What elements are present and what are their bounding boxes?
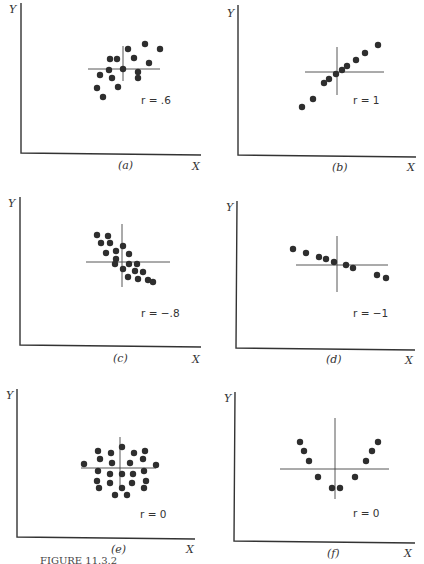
- data-point: [142, 448, 148, 454]
- axes-d: [236, 201, 415, 350]
- data-point: [339, 67, 345, 73]
- panel-b: Y X (b) r = 1: [227, 5, 416, 174]
- data-point: [143, 478, 149, 484]
- data-point: [96, 485, 102, 491]
- y-axis-label-f: Y: [224, 392, 233, 405]
- data-point: [153, 462, 159, 468]
- data-point: [297, 439, 303, 445]
- points-a: [94, 41, 163, 100]
- figure-caption: FIGURE 11.3.2: [40, 555, 117, 564]
- data-point: [119, 485, 125, 491]
- data-point: [310, 96, 316, 102]
- data-point: [107, 240, 113, 246]
- data-point: [120, 266, 126, 272]
- points-f: [297, 439, 381, 491]
- data-point: [109, 460, 115, 466]
- data-point: [344, 63, 350, 69]
- data-point: [125, 274, 131, 280]
- data-point: [120, 66, 126, 72]
- r-value-d: r = −1: [353, 307, 388, 319]
- data-point: [125, 46, 131, 52]
- panel-d: Y X (d) r = −1: [226, 201, 415, 367]
- r-value-b: r = 1: [353, 94, 379, 106]
- x-axis-label-b: X: [406, 161, 416, 174]
- data-point: [95, 448, 101, 454]
- data-point: [131, 450, 137, 456]
- data-point: [135, 75, 141, 81]
- data-point: [107, 56, 113, 62]
- data-point: [103, 250, 109, 256]
- data-point: [369, 448, 375, 454]
- data-point: [374, 272, 380, 278]
- data-point: [375, 42, 381, 48]
- data-point: [94, 478, 100, 484]
- data-point: [134, 261, 140, 267]
- crosshair-d: [296, 236, 388, 292]
- data-point: [150, 279, 156, 285]
- data-point: [141, 468, 147, 474]
- data-point: [97, 456, 103, 462]
- data-point: [135, 69, 141, 75]
- data-point: [363, 458, 369, 464]
- panel-a: Y X (a) r = .6: [9, 3, 201, 173]
- data-point: [113, 248, 119, 254]
- data-point: [350, 265, 356, 271]
- y-axis-label-a: Y: [9, 3, 18, 16]
- data-point: [315, 474, 321, 480]
- data-point: [352, 474, 358, 480]
- data-point: [131, 55, 137, 61]
- data-point: [132, 268, 138, 274]
- data-point: [140, 269, 146, 275]
- data-point: [97, 72, 103, 78]
- y-axis-label-e: Y: [6, 389, 15, 402]
- data-point: [321, 80, 327, 86]
- data-point: [290, 246, 296, 252]
- data-point: [141, 485, 147, 491]
- points-c: [94, 232, 156, 285]
- panel-label-d: (d): [326, 353, 342, 366]
- data-point: [301, 448, 307, 454]
- data-point: [303, 250, 309, 256]
- data-point: [126, 251, 132, 257]
- data-point: [94, 232, 100, 238]
- data-point: [127, 460, 133, 466]
- data-point: [126, 261, 132, 267]
- data-point: [306, 458, 312, 464]
- data-point: [130, 471, 136, 477]
- data-point: [105, 233, 111, 239]
- data-point: [94, 85, 100, 91]
- data-point: [316, 254, 322, 260]
- data-point: [107, 480, 113, 486]
- r-value-c: r = −.8: [141, 307, 180, 319]
- data-point: [81, 461, 87, 467]
- data-point: [129, 480, 135, 486]
- data-point: [120, 243, 126, 249]
- panel-label-f: (f): [327, 547, 340, 560]
- panel-label-a: (a): [118, 159, 133, 172]
- axes-f: [234, 392, 415, 543]
- x-axis-label-e: X: [185, 543, 195, 556]
- panel-label-b: (b): [332, 161, 348, 174]
- data-point: [112, 492, 118, 498]
- r-value-a: r = .6: [141, 94, 171, 106]
- data-point: [343, 262, 349, 268]
- data-point: [112, 261, 118, 267]
- axes-e: [17, 389, 195, 539]
- data-point: [100, 94, 106, 100]
- data-point: [323, 256, 329, 262]
- data-point: [326, 76, 332, 82]
- data-point: [106, 67, 112, 73]
- data-point: [157, 46, 163, 52]
- r-value-e: r = 0: [140, 508, 166, 520]
- data-point: [383, 275, 389, 281]
- data-point: [333, 71, 339, 77]
- y-axis-label-d: Y: [226, 201, 235, 214]
- data-point: [362, 50, 368, 56]
- panel-label-c: (c): [113, 352, 128, 365]
- data-point: [140, 456, 146, 462]
- x-axis-label-d: X: [404, 354, 414, 367]
- panel-e: Y X (e) r = 0: [6, 389, 195, 556]
- data-point: [114, 56, 120, 62]
- data-point: [299, 104, 305, 110]
- data-point: [119, 471, 125, 477]
